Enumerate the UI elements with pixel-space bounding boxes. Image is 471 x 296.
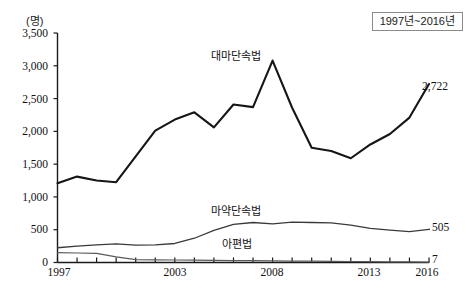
series-lines — [58, 61, 431, 263]
series-line-1 — [58, 61, 430, 184]
plot-area — [0, 0, 471, 296]
series-line-3 — [58, 253, 430, 262]
series-line-2 — [58, 222, 430, 248]
chart-container: (명) 1997년~2016년 3,500 3,000 2,500 2,000 … — [0, 0, 471, 296]
